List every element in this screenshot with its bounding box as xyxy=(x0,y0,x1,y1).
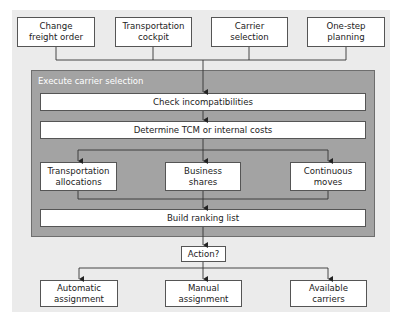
node-automatic-assignment: Automatic assignment xyxy=(40,280,118,307)
node-change-freight-order: Change freight order xyxy=(17,17,95,47)
node-available-carriers: Available carriers xyxy=(290,280,367,307)
node-business-shares: Business shares xyxy=(165,162,241,191)
node-action-decision: Action? xyxy=(181,246,226,262)
node-determine-tcm: Determine TCM or internal costs xyxy=(40,121,366,139)
panel-title: Execute carrier selection xyxy=(38,76,143,86)
node-transportation-allocations: Transportation allocations xyxy=(40,162,117,191)
node-one-step-planning: One-step planning xyxy=(307,17,385,47)
node-manual-assignment: Manual assignment xyxy=(165,280,242,307)
node-check-incompatibilities: Check incompatibilities xyxy=(40,93,366,111)
node-continuous-moves: Continuous moves xyxy=(290,162,366,191)
node-transportation-cockpit: Transportation cockpit xyxy=(115,17,192,47)
node-carrier-selection: Carrier selection xyxy=(211,17,288,47)
node-build-ranking-list: Build ranking list xyxy=(40,209,366,227)
